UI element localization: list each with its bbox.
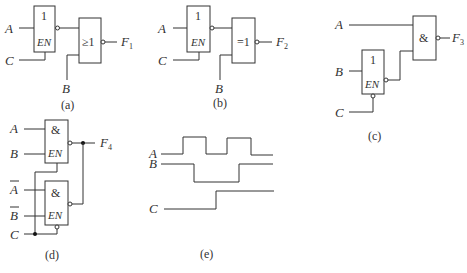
caption-c: (c): [368, 129, 381, 143]
input-label-C-d: C: [10, 227, 19, 242]
input-label-B-c: B: [335, 64, 343, 79]
waveform-A: [161, 137, 273, 155]
gate2-symbol-d: &: [51, 186, 61, 200]
gate1-symbol-d: &: [51, 123, 61, 137]
signal-label-C-e: C: [149, 201, 158, 216]
waveforms-e: A B C (e): [148, 137, 274, 261]
output-bubble-a: [101, 40, 105, 44]
caption-a: (a): [61, 98, 74, 112]
waveform-B: [161, 164, 273, 182]
circuit-c: A & F3 1 EN B C (c): [334, 16, 464, 143]
output-bubble-c: [436, 36, 440, 40]
buffer-symbol-a: 1: [41, 9, 47, 23]
enable-bubble-c: [371, 94, 375, 98]
input-label-B-d: B: [10, 146, 18, 161]
input-label-A-c: A: [334, 17, 343, 32]
output-label-F3: F3: [451, 30, 464, 47]
enable-bubble-lower-d: [55, 225, 59, 229]
output-bubble-b: [255, 40, 259, 44]
output-label-F1: F1: [120, 34, 133, 51]
input-label-A-a: A: [4, 21, 13, 36]
output-label-F2: F2: [275, 34, 288, 51]
gate-symbol-a: ≥1: [82, 35, 95, 49]
input-label-Abar-d: A: [9, 182, 18, 197]
input-label-A-b: A: [157, 21, 166, 36]
enable-label-a: EN: [36, 36, 52, 48]
junction-dot-C-d: [33, 232, 37, 236]
gate-symbol-b: =1: [237, 35, 250, 49]
output-bubble-upper-d: [68, 141, 72, 145]
gate-symbol-c: &: [419, 31, 429, 45]
inverter-bubble-a: [56, 26, 60, 30]
caption-e: (e): [200, 247, 213, 261]
gate1-enable-d: EN: [47, 147, 63, 159]
caption-b: (b): [213, 96, 227, 110]
output-label-F4: F4: [99, 135, 112, 152]
enable-label-c: EN: [364, 78, 380, 90]
input-label-Bbar-d: B: [10, 208, 18, 223]
input-label-A-d: A: [9, 121, 18, 136]
enable-label-b: EN: [190, 36, 206, 48]
circuit-b: 1 EN A C =1 F2 B (b): [157, 6, 288, 110]
waveform-C: [164, 191, 274, 209]
input-label-C-b: C: [158, 53, 167, 68]
input-label-C-c: C: [335, 105, 344, 120]
signal-label-B-e: B: [149, 156, 157, 171]
caption-d: (d): [45, 248, 59, 262]
output-bubble-lower-d: [68, 202, 72, 206]
inverter-bubble-c: [384, 78, 388, 82]
inverter-bubble-b: [210, 26, 214, 30]
diagram-canvas: 1 EN A C ≥1 F1 B (a) 1 EN A C =1: [0, 0, 467, 273]
input-label-C-a: C: [5, 53, 14, 68]
input-label-B-b: B: [215, 81, 223, 96]
input-label-B-a: B: [62, 81, 70, 96]
buffer-symbol-b: 1: [195, 9, 201, 23]
circuit-d: & EN A B F4 & EN A B C (d): [9, 120, 112, 262]
gate2-enable-d: EN: [47, 209, 63, 221]
buffer-symbol-c: 1: [370, 53, 376, 67]
circuit-a: 1 EN A C ≥1 F1 B (a): [4, 6, 133, 112]
